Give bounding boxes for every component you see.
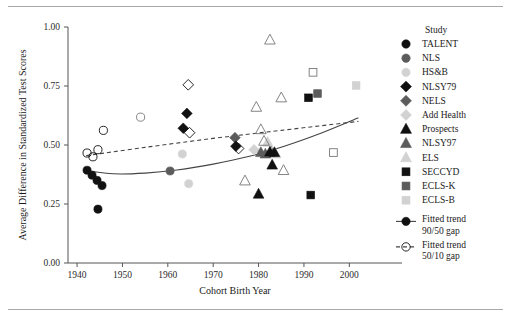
legend-marker-nls	[402, 54, 410, 62]
legend-title: Study	[425, 25, 447, 35]
legend-trend-label-2-line1: Fitted trend	[422, 240, 466, 250]
data-point-els-open	[240, 175, 251, 185]
x-tick-label: 2000	[340, 270, 359, 280]
y-tick-label: 1.00	[43, 22, 60, 32]
data-point-talent-50-10	[99, 126, 107, 134]
legend-trend-marker-1	[402, 217, 410, 225]
data-point-talent	[98, 182, 106, 190]
figure-container: 0.000.250.500.751.0019401950196019701980…	[0, 0, 511, 323]
data-point-nlsy79	[178, 123, 189, 134]
x-tick-label: 1960	[158, 270, 177, 280]
data-point-seccyd	[305, 94, 313, 102]
legend-marker-ecls-b	[402, 196, 410, 204]
legend-trend-label-1-line2: 90/50 gap	[422, 226, 460, 236]
legend-label-hs-b: HS&B	[422, 67, 448, 77]
x-axis-title: Cohort Birth Year	[199, 285, 271, 296]
data-point-seccyd-open	[309, 68, 317, 76]
data-point-els-open	[276, 92, 287, 102]
data-point-ecls-b	[352, 82, 360, 90]
legend-label-ecls-b: ECLS-B	[422, 195, 455, 205]
legend-label-ecls-k: ECLS-K	[422, 181, 455, 191]
data-point-talent-50-10	[89, 153, 97, 161]
legend-marker-nlsy79	[401, 81, 412, 92]
legend-marker-nels	[401, 95, 412, 106]
legend-marker-els	[401, 152, 412, 162]
data-point-seccyd-open	[330, 149, 338, 157]
data-point-prospects	[253, 188, 264, 198]
legend-trend-label-1-line1: Fitted trend	[422, 214, 466, 224]
legend-marker-nlsy97	[401, 137, 412, 147]
legend-trend-label-2-line2: 50/10 gap	[422, 251, 460, 261]
data-point-seccyd	[307, 191, 315, 199]
data-point-hs-b	[185, 180, 193, 188]
data-point-els-open	[265, 34, 276, 44]
legend-marker-prospects	[401, 123, 412, 133]
data-point-nls	[166, 167, 174, 175]
legend-label-nlsy97: NLSY97	[422, 138, 457, 148]
x-tick-label: 1940	[68, 270, 87, 280]
x-tick-label: 1950	[113, 270, 132, 280]
data-point-els-open	[278, 165, 289, 175]
x-tick-label: 1980	[249, 270, 268, 280]
legend-marker-seccyd	[402, 168, 410, 176]
legend-label-nls: NLS	[422, 53, 440, 63]
data-point-nlsy79-50-10	[183, 79, 194, 90]
legend-label-add-health: Add Health	[422, 110, 466, 120]
data-point-prospects	[267, 159, 278, 169]
legend-marker-add-health	[401, 110, 412, 121]
y-tick-label: 0.75	[43, 81, 60, 91]
legend-label-talent: TALENT	[422, 39, 458, 49]
y-tick-label: 0.00	[43, 258, 60, 268]
x-tick-label: 1970	[204, 270, 223, 280]
legend-label-nels: NELS	[422, 96, 446, 106]
data-point-talent-50-10	[94, 146, 102, 154]
y-axis-title: Average Difference in Standardized Test …	[17, 49, 28, 240]
scatter-plot-svg: 0.000.250.500.751.0019401950196019701980…	[0, 0, 511, 323]
legend-label-els: ELS	[422, 153, 439, 163]
data-point-hs-b-50-10	[137, 113, 145, 121]
legend-marker-ecls-k	[402, 182, 410, 190]
data-point-nlsy79	[182, 108, 193, 119]
trend-line-dashed	[86, 121, 358, 155]
legend-marker-talent	[402, 40, 410, 48]
data-point-els-open	[251, 101, 262, 111]
legend-marker-hs-b	[402, 68, 410, 76]
legend-label-seccyd: SECCYD	[422, 167, 460, 177]
data-point-nlsy79	[231, 141, 242, 152]
x-tick-label: 1990	[294, 270, 313, 280]
y-tick-label: 0.50	[43, 140, 60, 150]
data-point-ecls-k	[314, 90, 322, 98]
legend-label-nlsy79: NLSY79	[422, 82, 457, 92]
data-point-talent	[94, 205, 102, 213]
data-point-hs-b	[178, 150, 186, 158]
legend-label-prospects: Prospects	[422, 124, 459, 134]
y-tick-label: 0.25	[43, 199, 60, 209]
